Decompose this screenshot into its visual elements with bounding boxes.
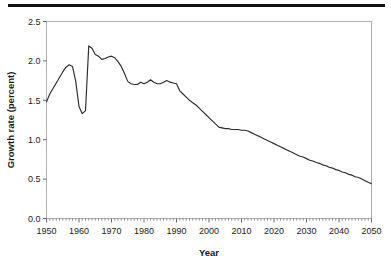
x-tick-label: 1980 xyxy=(134,226,154,236)
y-tick-label: 2.0 xyxy=(28,56,41,66)
x-tick-label: 2000 xyxy=(199,226,219,236)
y-axis-title: Growth rate (percent) xyxy=(5,72,16,169)
x-axis: 1950196019701980199020002010202020302040… xyxy=(36,219,381,236)
x-axis-title: Year xyxy=(199,247,219,258)
y-tick-label: 0.5 xyxy=(28,174,41,184)
x-tick-label: 2040 xyxy=(329,226,349,236)
x-tick-label: 2030 xyxy=(296,226,316,236)
y-tick-label: 1.5 xyxy=(28,96,41,106)
y-tick-label: 2.5 xyxy=(28,17,41,27)
x-tick-label: 2050 xyxy=(361,226,381,236)
growth-rate-line-chart: 0.00.51.01.52.02.5 195019601970198019902… xyxy=(0,0,391,270)
x-tick-label: 1950 xyxy=(36,226,56,236)
y-tick-label: 0.0 xyxy=(28,214,41,224)
y-axis: 0.00.51.01.52.02.5 xyxy=(28,17,47,224)
y-tick-label: 1.0 xyxy=(28,135,41,145)
x-tick-label: 1970 xyxy=(101,226,121,236)
population-growth-rate-figure: 0.00.51.01.52.02.5 195019601970198019902… xyxy=(0,0,391,270)
x-tick-label: 2010 xyxy=(231,226,251,236)
x-tick-label: 1960 xyxy=(69,226,89,236)
x-tick-label: 2020 xyxy=(264,226,284,236)
x-tick-label: 1990 xyxy=(166,226,186,236)
plot-frame xyxy=(47,22,372,219)
